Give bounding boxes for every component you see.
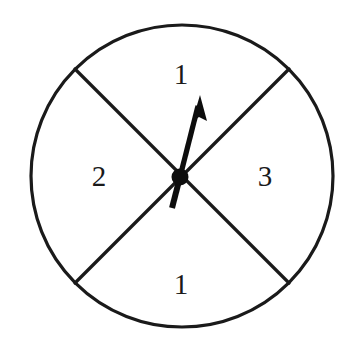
spinner-canvas: 1 2 3 1 [0, 0, 353, 349]
sector-label-bottom: 1 [174, 268, 189, 300]
sector-label-left: 2 [92, 160, 107, 192]
sector-label-right: 3 [258, 160, 273, 192]
spinner-figure: 1 2 3 1 [0, 0, 353, 349]
spinner-arrow-hub [172, 169, 189, 186]
sector-label-top: 1 [174, 58, 189, 90]
